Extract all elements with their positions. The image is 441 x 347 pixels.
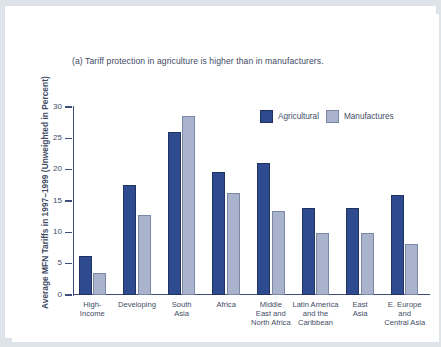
chart-legend: AgriculturalManufactures [260,110,394,123]
legend-swatch-agri [260,110,273,123]
bar-manufactures [138,215,151,295]
y-tick-mark [65,106,72,107]
legend-label: Manufactures [344,112,394,121]
x-category-label: E. EuropeandCentral Asia [374,300,436,328]
legend-item-agri: Agricultural [260,110,319,123]
bar-manufactures [361,233,374,295]
x-category-label-line: Asia [151,309,213,318]
bar-manufactures [405,244,418,295]
y-tick-label: 25 [12,133,62,142]
x-category-label-line: Caribbean [284,318,346,327]
y-tick-label: 5 [12,258,62,267]
y-tick-label: 30 [12,102,62,111]
paper-sheet: (a) Tariff protection in agriculture is … [4,5,437,339]
bar-agricultural [391,195,404,295]
y-tick-label: 20 [12,164,62,173]
bar-manufactures [227,193,240,295]
bar-agricultural [168,132,181,295]
bar-manufactures [316,233,329,295]
y-tick-label: 15 [12,196,62,205]
bar-agricultural [212,172,225,295]
bar-agricultural [346,208,359,295]
y-tick-mark [65,294,72,295]
bar-agricultural [257,163,270,295]
y-tick-mark [65,263,72,264]
y-tick-label: 10 [12,227,62,236]
y-tick-mark [65,232,72,233]
plot-area [73,107,430,295]
figure-page: (a) Tariff protection in agriculture is … [0,0,441,347]
x-category-label-line: E. Europe [374,300,436,309]
bar-agricultural [79,256,92,295]
legend-swatch-manu [326,110,339,123]
bar-manufactures [182,116,195,295]
y-tick-mark [65,138,72,139]
chart-frame: (a) Tariff protection in agriculture is … [12,14,439,342]
y-tick-mark [65,169,72,170]
bar-agricultural [123,185,136,295]
y-tick-label: 0 [12,290,62,299]
bar-manufactures [272,211,285,295]
legend-item-manu: Manufactures [326,110,394,123]
legend-label: Agricultural [278,112,319,121]
y-tick-mark [65,200,72,201]
bar-agricultural [302,208,315,295]
y-axis-title: Average MFN Tariffs in 1997–1999 (Unweig… [40,79,50,309]
x-category-label-line: and [374,309,436,318]
chart-title: (a) Tariff protection in agriculture is … [72,56,432,66]
x-category-label-line: Central Asia [374,318,436,327]
x-category-label-line: Income [61,309,123,318]
bar-manufactures [93,273,106,295]
